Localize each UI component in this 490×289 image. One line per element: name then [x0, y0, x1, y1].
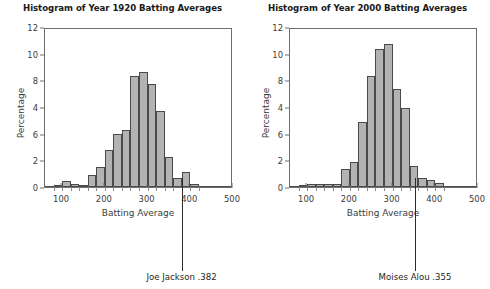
chart-title-1920: Histogram of Year 1920 Batting Averages	[0, 3, 245, 13]
x-axis-label-2000: Batting Average	[289, 208, 477, 218]
figure-two-histograms: Histogram of Year 1920 Batting Averages …	[0, 0, 490, 289]
histogram-bar	[393, 89, 402, 187]
histogram-bar	[156, 111, 165, 187]
annotation-label-1920: Joe Jackson .382	[146, 272, 216, 282]
bars-2000	[290, 29, 476, 187]
y-tick-label: 0	[0, 183, 44, 193]
y-tick-label: 0	[245, 183, 289, 193]
x-tick-label: 100	[298, 188, 314, 204]
histogram-bar	[358, 122, 367, 187]
baseline-2000	[290, 186, 476, 187]
histogram-bar	[375, 49, 384, 187]
x-tick-mark	[477, 183, 478, 188]
histogram-bar	[367, 76, 376, 187]
histogram-bar	[384, 44, 393, 187]
histogram-bar	[105, 150, 114, 187]
x-tick-label: 300	[384, 188, 400, 204]
histogram-bar	[165, 157, 174, 187]
x-axis-label-1920: Batting Average	[44, 208, 232, 218]
x-tick-mark	[146, 183, 147, 188]
x-tick-mark	[189, 183, 190, 188]
x-tick-mark	[232, 183, 233, 188]
x-tick-label: 500	[469, 188, 485, 204]
chart-title-2000: Histogram of Year 2000 Batting Averages	[245, 3, 490, 13]
histogram-bar	[139, 72, 148, 187]
y-axis-label-2000: Percentage	[261, 48, 271, 178]
histogram-bar	[113, 134, 122, 187]
x-tick-label: 300	[139, 188, 155, 204]
annotation-line-1920	[182, 178, 183, 271]
y-tick-label: 12	[0, 23, 44, 33]
annotation-label-2000: Moises Alou .355	[379, 272, 452, 282]
x-tick-mark	[306, 183, 307, 188]
y-axis-label-1920: Percentage	[16, 48, 26, 178]
x-tick-mark	[434, 183, 435, 188]
x-tick-mark	[348, 183, 349, 188]
histogram-bar	[410, 166, 419, 187]
x-tick-mark	[103, 183, 104, 188]
histogram-bar	[122, 130, 131, 187]
plot-area-1920	[44, 28, 232, 188]
x-tick-label: 500	[224, 188, 240, 204]
x-tick-mark	[391, 183, 392, 188]
x-tick-label: 400	[181, 188, 197, 204]
bars-1920	[45, 29, 231, 187]
panel-histogram-1920: Histogram of Year 1920 Batting Averages …	[0, 0, 245, 289]
y-tick-label: 12	[245, 23, 289, 33]
annotation-line-2000	[415, 178, 416, 271]
plot-area-2000	[289, 28, 477, 188]
x-tick-label: 400	[426, 188, 442, 204]
histogram-bar	[401, 108, 410, 187]
panel-histogram-2000: Histogram of Year 2000 Batting Averages …	[245, 0, 490, 289]
histogram-bar	[350, 162, 359, 187]
x-tick-label: 200	[341, 188, 357, 204]
x-tick-label: 100	[53, 188, 69, 204]
histogram-bar	[130, 76, 139, 187]
x-tick-mark	[61, 183, 62, 188]
baseline-1920	[45, 186, 231, 187]
x-tick-label: 200	[96, 188, 112, 204]
histogram-bar	[148, 84, 157, 187]
